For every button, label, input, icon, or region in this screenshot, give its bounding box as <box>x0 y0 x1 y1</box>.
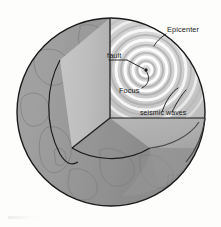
figure-root: Epicenter fault Focus seismic waves <box>0 0 221 227</box>
epicenter-label: Epicenter <box>167 25 200 34</box>
seismic-waves-label: seismic waves <box>140 109 187 116</box>
earth-sphere <box>17 7 209 206</box>
fault-label: fault <box>107 51 121 60</box>
earthquake-cutaway-diagram: Epicenter fault Focus seismic waves <box>0 0 221 227</box>
scan-artifact-mark <box>8 216 42 219</box>
focus-label: Focus <box>119 86 140 95</box>
